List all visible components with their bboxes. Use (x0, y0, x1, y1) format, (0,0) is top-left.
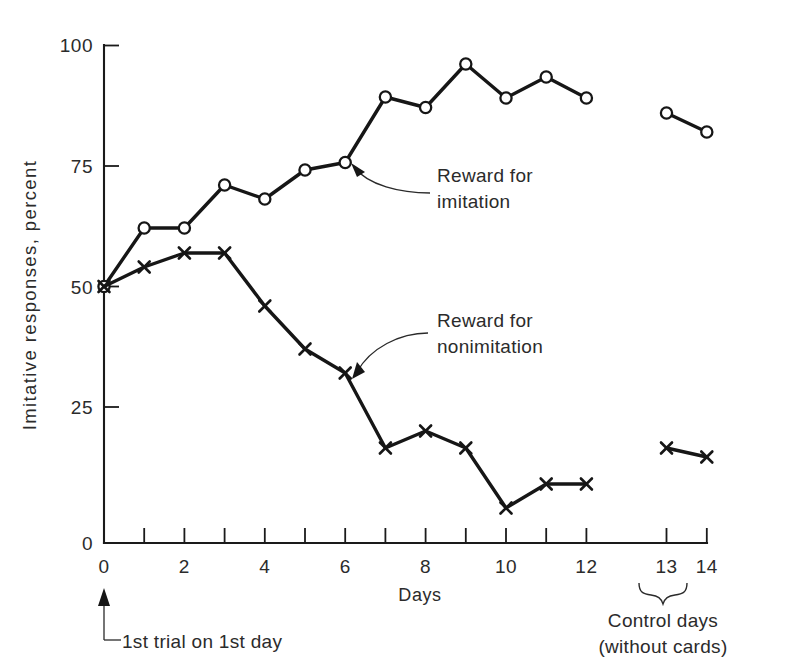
imitation-point-d6 (340, 157, 351, 168)
y-axis-title: Imitative responses, percent (19, 160, 40, 431)
reward-nonimitation-label-line1: Reward for (437, 310, 533, 331)
imitation-point-d3 (219, 179, 230, 190)
x-tick-label-0: 0 (98, 556, 109, 577)
nonimitation-point-d5 (300, 344, 311, 355)
x-tick-label-2: 2 (179, 556, 190, 577)
reward-imitation-arrowhead (351, 163, 365, 177)
reward-imitation-label-line1: Reward for (437, 165, 533, 186)
reward-nonimitation-label-line2: nonimitation (437, 336, 543, 357)
y-axis-ticks (104, 46, 119, 408)
x-axis-ticks (144, 528, 707, 543)
first-trial-label: 1st trial on 1st day (122, 631, 282, 652)
x-tick-label-4: 4 (259, 556, 270, 577)
control-days-label-line2: (without cards) (598, 636, 727, 657)
x-tick-label-8: 8 (420, 556, 431, 577)
first-trial-arrowhead (98, 588, 110, 606)
imitation-point-d9 (460, 58, 471, 69)
imitation-point-d12 (581, 92, 592, 103)
annotation-reward-for-imitation: Reward for imitation (351, 163, 533, 212)
x-tick-label-6: 6 (340, 556, 351, 577)
imitation-point-d5 (299, 164, 310, 175)
y-tick-label-0: 0 (82, 533, 93, 554)
series-reward-for-nonimitation (99, 248, 713, 514)
y-tick-label-100: 100 (60, 35, 93, 56)
y-tick-label-75: 75 (71, 156, 93, 177)
chart-figure: 100 75 50 25 0 0 2 4 6 8 10 12 13 14 Day… (0, 0, 789, 669)
nonimitation-point-d6 (340, 368, 351, 379)
imitation-point-d1 (139, 222, 150, 233)
imitation-point-d10 (500, 92, 511, 103)
annotation-reward-for-nonimitation: Reward for nonimitation (352, 310, 543, 379)
imitation-point-d2 (179, 222, 190, 233)
axis-group (104, 45, 707, 543)
reward-imitation-leader (355, 168, 430, 193)
y-tick-label-25: 25 (71, 397, 93, 418)
control-days-brace (639, 583, 687, 604)
reward-imitation-label-line2: imitation (437, 191, 510, 212)
y-tick-label-50: 50 (71, 277, 93, 298)
nonimitation-point-d4 (259, 301, 270, 312)
x-axis-title: Days (398, 585, 441, 605)
x-tick-label-10: 10 (495, 556, 517, 577)
x-tick-label-12: 12 (575, 556, 597, 577)
x-tick-label-14: 14 (696, 556, 718, 577)
reward-nonimitation-leader (357, 333, 428, 372)
imitation-point-d4 (259, 193, 270, 204)
line-chart-svg: 100 75 50 25 0 0 2 4 6 8 10 12 13 14 Day… (0, 0, 789, 669)
nonimitation-point-d10 (501, 503, 512, 514)
imitation-point-d14 (701, 126, 712, 137)
imitation-point-d13 (661, 107, 672, 118)
imitation-point-d11 (541, 71, 552, 82)
annotation-first-trial: 1st trial on 1st day (98, 588, 282, 652)
x-tick-label-13: 13 (655, 556, 677, 577)
reward-nonimitation-arrowhead (352, 362, 365, 379)
control-days-label-line1: Control days (608, 610, 718, 631)
annotation-control-days: Control days (without cards) (598, 583, 727, 657)
imitation-point-d8 (420, 102, 431, 113)
imitation-point-d7 (380, 91, 391, 102)
nonimitation-main-line (104, 253, 586, 508)
series-reward-for-imitation (98, 58, 712, 292)
